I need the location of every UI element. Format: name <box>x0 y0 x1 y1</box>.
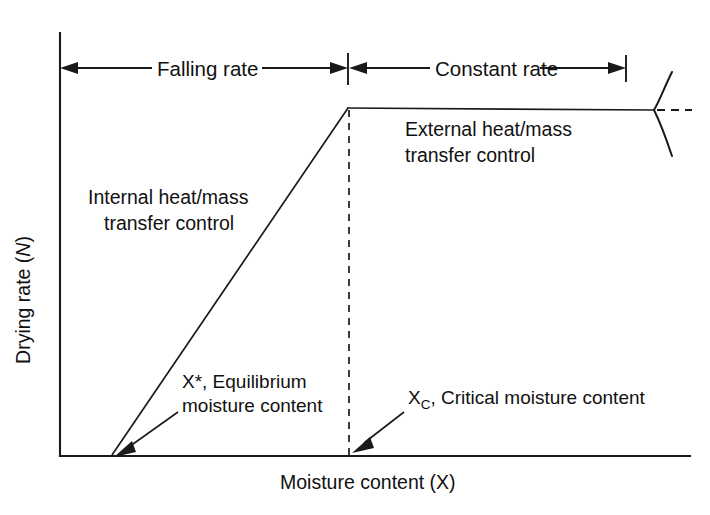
y-axis-label-symbol: N <box>12 242 34 257</box>
drying-rate-figure: Falling rate Constant rate <box>0 0 710 515</box>
x-axis-label: Moisture content (X) <box>280 471 456 493</box>
axis-break-lower-curve <box>654 110 672 156</box>
critical-label-text: , Critical moisture content <box>430 387 645 408</box>
equilibrium-label-line2: moisture content <box>182 395 323 416</box>
critical-symbol-subscript: C <box>421 397 431 412</box>
span-constant-right-arrowhead <box>608 62 626 74</box>
span-falling-rate-label: Falling rate <box>157 57 258 80</box>
external-control-label-line2: transfer control <box>405 144 535 166</box>
span-constant-rate-label: Constant rate <box>435 57 558 80</box>
internal-control-label-line2: transfer control <box>104 212 234 234</box>
critical-pointer-arrowhead <box>352 437 374 453</box>
critical-label: XC, Critical moisture content <box>408 387 646 412</box>
annotation-equilibrium-moisture: X*, Equilibrium moisture content <box>114 371 323 457</box>
span-falling-right-arrowhead <box>330 62 348 74</box>
span-falling-left-arrowhead <box>60 62 78 74</box>
internal-control-label-line1: Internal heat/mass <box>88 186 249 208</box>
span-indicators: Falling rate Constant rate <box>60 53 626 85</box>
equilibrium-label-line1: X*, Equilibrium <box>182 371 307 392</box>
axis-break-symbol <box>654 72 692 156</box>
annotation-critical-moisture: XC, Critical moisture content <box>352 387 646 453</box>
y-axis-label: Drying rate (N) <box>12 236 34 364</box>
constant-rate-segment <box>347 108 655 110</box>
external-control-label-line1: External heat/mass <box>405 118 572 140</box>
span-constant-rate: Constant rate <box>349 55 626 82</box>
span-constant-left-arrowhead <box>349 62 367 74</box>
equilibrium-pointer-arrowhead <box>114 441 136 457</box>
y-axis-label-suffix: ) <box>12 236 34 243</box>
span-falling-rate: Falling rate <box>60 57 348 80</box>
critical-symbol-base: X <box>408 387 421 408</box>
drying-rate-chart: Falling rate Constant rate <box>0 0 710 515</box>
y-axis-label-prefix: Drying rate ( <box>12 256 34 364</box>
axis-break-upper-curve <box>654 72 672 110</box>
equilibrium-pointer-line <box>126 412 178 449</box>
